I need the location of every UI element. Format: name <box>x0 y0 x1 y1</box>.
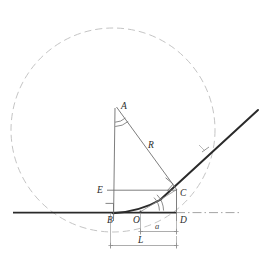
right-angle-at-B-icon <box>106 203 114 212</box>
angle-at-A-arc-inner-icon <box>115 118 125 122</box>
segment-label-R: R <box>147 140 154 150</box>
diagram-canvas: A B C D E O R a L <box>0 0 269 262</box>
dim-L-arrow-right-icon <box>174 243 179 248</box>
point-label-O: O <box>133 215 140 225</box>
incline-tick-arc-icon <box>199 145 205 151</box>
dim-a-arrow-left-icon <box>138 229 143 234</box>
segment-OC <box>140 190 176 212</box>
dimension-label-L: L <box>137 235 143 245</box>
tangent-circle <box>11 28 215 232</box>
point-label-A: A <box>120 101 127 111</box>
dimension-label-a: a <box>155 221 159 231</box>
dim-L-arrow-left-icon <box>108 243 113 248</box>
point-label-D: D <box>179 215 187 225</box>
dim-a-arrow-right-icon <box>174 229 179 234</box>
angle-at-O-arc-inner-icon <box>154 198 159 211</box>
point-O-dot <box>140 211 142 213</box>
point-label-B: B <box>107 215 113 225</box>
point-label-E: E <box>96 185 103 195</box>
point-label-C: C <box>180 188 187 198</box>
segment-AC-radius <box>117 107 178 190</box>
geometry-figure: A B C D E O R a L <box>0 0 269 262</box>
